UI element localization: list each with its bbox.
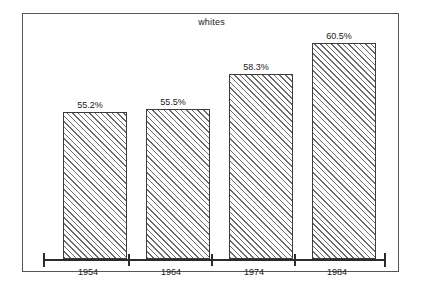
bar-value-label-1984: 60.5% (293, 31, 385, 41)
chart-title: whites (23, 17, 400, 27)
plot-area: 55.2% 55.5% 58.3% (49, 32, 379, 259)
axis-tick-2 (211, 254, 213, 266)
x-axis-label-1984: 1984 (296, 267, 378, 277)
axis-tick-3 (294, 254, 296, 266)
bar-wrap-1954: 55.2% (49, 32, 131, 259)
bar-group-1964: 55.5% (132, 32, 214, 259)
axis-tick-1 (128, 254, 130, 266)
x-axis-label-1974: 1974 (213, 267, 295, 277)
bar-1964[interactable] (146, 109, 210, 259)
bar-value-label-1974: 58.3% (210, 62, 302, 72)
chart-frame: whites 55.2% 55.5% 58.3% (22, 13, 399, 272)
bar-wrap-1984: 60.5% (298, 32, 380, 259)
bar-value-label-1964: 55.5% (127, 97, 219, 107)
bar-1974[interactable] (229, 74, 293, 259)
bar-group-1954: 55.2% (49, 32, 131, 259)
chart-screenshot: whites 55.2% 55.5% 58.3% (0, 0, 421, 288)
bar-wrap-1974: 58.3% (215, 32, 297, 259)
bar-value-label-1954: 55.2% (44, 100, 136, 110)
bar-group-1974: 58.3% (215, 32, 297, 259)
x-axis-label-1954: 1954 (47, 267, 129, 277)
x-axis-line (43, 259, 386, 261)
bar-wrap-1964: 55.5% (132, 32, 214, 259)
axis-tick-start (43, 253, 45, 267)
bar-1954[interactable] (63, 112, 127, 259)
bar-group-1984: 60.5% (298, 32, 380, 259)
bar-1984[interactable] (312, 43, 376, 259)
x-axis-label-1964: 1964 (130, 267, 212, 277)
axis-tick-end (384, 253, 386, 267)
